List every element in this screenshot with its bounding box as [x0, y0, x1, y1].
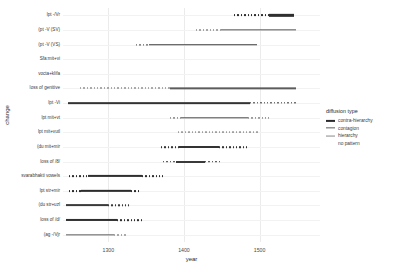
legend-items: contra-hierarchycontagionhierarchyno pat… [326, 117, 394, 147]
series-segment-dotted [170, 117, 181, 118]
series-segment-dotted [234, 14, 270, 16]
series-segment-dotted [250, 102, 296, 103]
series-segment-solid [88, 175, 142, 177]
legend-item-label: no pattern [338, 141, 360, 146]
series-segment-dotted [161, 146, 178, 148]
legend-item[interactable]: contra-hierarchy [326, 117, 394, 124]
x-axis-tick-label: 1400 [178, 247, 190, 253]
series-segment-solid [81, 190, 131, 192]
gridline-horizontal [63, 74, 320, 75]
legend-item[interactable]: no pattern [326, 140, 394, 147]
x-axis-tick-label: 1300 [103, 247, 115, 253]
y-axis-tick-label: lpt str+mir [40, 189, 60, 194]
y-axis-tick-label: (ag -/Vjr [44, 232, 60, 237]
gridline-horizontal [63, 59, 320, 60]
series-segment-solid [181, 117, 248, 118]
legend-item[interactable]: hierarchy [326, 132, 394, 139]
gridline-vertical [108, 8, 109, 242]
series-segment-solid [221, 29, 296, 30]
legend-key-icon [326, 117, 335, 124]
series-segment-solid [66, 234, 114, 235]
series-segment-dotted [163, 161, 176, 163]
y-axis-tick-label: loss of /8/ [40, 159, 60, 164]
y-axis-tick-label: vocta+klifa [38, 72, 60, 77]
series-segment-dotted [131, 190, 140, 192]
series-segment-solid [179, 146, 219, 148]
x-axis-tick-label: 1500 [254, 247, 266, 253]
series-segment-solid [66, 219, 117, 221]
series-segment-dotted [219, 146, 247, 148]
series-segment-dotted [117, 219, 143, 221]
series-segment-dotted [248, 117, 269, 118]
series-segment-dotted [178, 132, 260, 133]
y-axis-tick-label: lpt mit+vutl [38, 130, 60, 135]
y-axis-tick-label: svarabhakti vowels [21, 174, 60, 179]
y-axis-tick-label: (pt -V (VS) [38, 42, 60, 47]
series-segment-solid [170, 88, 296, 89]
series-segment-dotted [69, 175, 88, 177]
y-axis-tick-label: Sfa:mit+vi [40, 57, 60, 62]
legend-key-icon [326, 140, 335, 147]
legend-key-icon [326, 132, 335, 139]
y-axis-tick-label: lpt mit+vt [41, 115, 60, 120]
legend-title: diffusion type [326, 108, 394, 114]
legend-item-label: contagion [338, 126, 359, 131]
legend-item-label: hierarchy [338, 133, 358, 138]
legend-key-icon [326, 125, 335, 132]
y-axis-tick-label: loss of /d/ [40, 218, 60, 223]
series-segment-solid [176, 161, 205, 163]
y-axis-tick-label: loss of genitive [30, 86, 60, 91]
series-segment-solid [269, 14, 293, 16]
legend: diffusion type contra-hierarchycontagion… [326, 108, 394, 147]
series-segment-dotted [108, 205, 128, 206]
series-segment-solid [68, 102, 250, 104]
series-segment-solid [66, 205, 108, 207]
series-segment-dotted [205, 161, 220, 163]
gridline-vertical [260, 8, 261, 242]
series-segment-dotted [196, 29, 221, 30]
series-segment-dotted [69, 190, 81, 192]
y-axis-tick-label: (du str+uzl [38, 203, 60, 208]
series-segment-dotted [136, 44, 149, 45]
y-axis-tick-label: lpt -Vi [48, 101, 60, 106]
legend-item-label: contra-hierarchy [338, 118, 373, 123]
plot-panel [63, 8, 320, 242]
y-axis-tick-label: (pt -V (SV) [38, 28, 60, 33]
series-segment-solid [149, 44, 257, 46]
series-segment-dotted [142, 175, 163, 177]
x-axis-title: year [63, 256, 320, 262]
y-axis-tick-label: lpt -/Vr [47, 13, 60, 18]
y-axis-title: change [4, 92, 10, 138]
legend-item[interactable]: contagion [326, 125, 394, 132]
series-segment-dotted [80, 88, 170, 89]
y-axis-tick-label: (du mit+mir [37, 145, 60, 150]
chart-container: lpt -/Vr(pt -V (SV)(pt -V (VS)Sfa:mit+vi… [0, 0, 395, 275]
series-segment-dotted [114, 234, 127, 235]
